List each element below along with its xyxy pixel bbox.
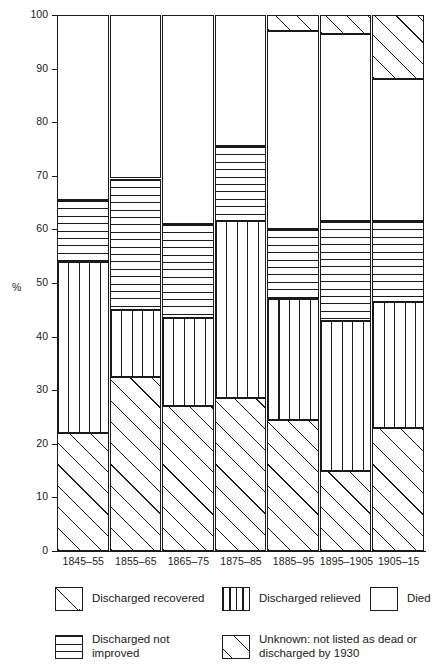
x-axis-line (57, 551, 426, 552)
bar-1885-95[interactable] (267, 15, 319, 551)
y-axis-tick-label: 0 (42, 544, 48, 556)
x-axis-label: 1845–55 (57, 555, 110, 567)
stacked-bar-chart-figure: % 0102030405060708090100 1845–551855–651… (0, 0, 436, 668)
x-axis-label: 1865–75 (162, 555, 215, 567)
bar-segment-unknown[interactable] (267, 15, 319, 31)
chart-legend: Discharged recovered Discharged relieved… (0, 583, 436, 668)
y-axis-tick-label: 40 (36, 330, 48, 342)
legend-label: Discharged not improved (92, 633, 169, 660)
bar-segment-discharged-not-improved[interactable] (372, 221, 424, 301)
bar-segment-discharged-relieved[interactable] (110, 310, 162, 377)
legend-label: Discharged recovered (92, 592, 205, 606)
bar-segment-died[interactable] (57, 15, 109, 200)
bars-group (57, 15, 425, 551)
y-axis-tick-label: 60 (36, 222, 48, 234)
x-axis-label: 1905–15 (372, 555, 425, 567)
bar-segment-discharged-not-improved[interactable] (57, 200, 109, 262)
bar-segment-unknown[interactable] (372, 15, 424, 79)
bar-segment-died[interactable] (267, 31, 319, 229)
bar-segment-discharged-not-improved[interactable] (267, 229, 319, 299)
y-axis-title: % (12, 281, 21, 293)
legend-item-unknown: Unknown: not listed as dead or discharge… (222, 633, 417, 660)
bar-segment-died[interactable] (320, 34, 372, 222)
bar-segment-discharged-relieved[interactable] (320, 321, 372, 471)
white-swatch-icon (370, 587, 398, 611)
bar-segment-discharged-recovered[interactable] (162, 406, 214, 551)
bar-segment-died[interactable] (215, 15, 267, 146)
legend-label: Unknown: not listed as dead or discharge… (259, 633, 417, 660)
bar-segment-unknown[interactable] (320, 15, 372, 34)
bar-segment-discharged-relieved[interactable] (162, 318, 214, 406)
legend-item-discharged-not-improved: Discharged not improved (55, 633, 169, 660)
bar-1905-15[interactable] (372, 15, 424, 551)
bar-segment-discharged-recovered[interactable] (110, 377, 162, 551)
y-axis-tick-label: 80 (36, 115, 48, 127)
bar-segment-discharged-not-improved[interactable] (110, 179, 162, 310)
bar-segment-discharged-relieved[interactable] (267, 299, 319, 420)
bar-1855-65[interactable] (110, 15, 162, 551)
y-axis-tick-mark (52, 551, 57, 552)
bar-segment-discharged-recovered[interactable] (215, 398, 267, 551)
bar-segment-died[interactable] (372, 79, 424, 221)
legend-item-died: Died (370, 587, 431, 611)
x-axis-label: 1875–85 (215, 555, 268, 567)
diagonal-hatch-swatch-icon (55, 587, 83, 611)
y-axis-tick-label: 30 (36, 383, 48, 395)
bar-segment-discharged-recovered[interactable] (57, 433, 109, 551)
legend-item-discharged-recovered: Discharged recovered (55, 587, 205, 611)
bar-1865-75[interactable] (162, 15, 214, 551)
bar-segment-discharged-not-improved[interactable] (215, 146, 267, 221)
bar-segment-discharged-not-improved[interactable] (320, 221, 372, 320)
x-axis-label: 1885–95 (267, 555, 320, 567)
x-axis-label: 1855–65 (110, 555, 163, 567)
y-axis-tick-label: 50 (36, 276, 48, 288)
bar-segment-died[interactable] (162, 15, 214, 224)
legend-label: Discharged relieved (259, 592, 361, 606)
bar-segment-discharged-relieved[interactable] (215, 221, 267, 398)
y-axis-tick-label: 20 (36, 437, 48, 449)
x-axis-label: 1895–1905 (320, 555, 373, 567)
bar-1895-1905[interactable] (320, 15, 372, 551)
bar-1875-85[interactable] (215, 15, 267, 551)
y-axis-tick-label: 70 (36, 169, 48, 181)
bar-segment-discharged-recovered[interactable] (267, 420, 319, 551)
bar-segment-discharged-recovered[interactable] (320, 471, 372, 551)
y-axis-tick-label: 10 (36, 490, 48, 502)
y-axis-tick-label: 100 (30, 8, 48, 20)
bar-segment-died[interactable] (110, 15, 162, 178)
legend-label: Died (407, 592, 431, 606)
y-axis-tick-label: 90 (36, 62, 48, 74)
bar-segment-discharged-not-improved[interactable] (162, 224, 214, 318)
sparse-diagonal-hatch-swatch-icon (222, 635, 250, 659)
legend-item-discharged-relieved: Discharged relieved (222, 587, 361, 611)
bar-segment-discharged-relieved[interactable] (372, 302, 424, 428)
horizontal-lines-swatch-icon (55, 635, 83, 659)
vertical-lines-swatch-icon (222, 587, 250, 611)
bar-segment-discharged-recovered[interactable] (372, 428, 424, 551)
bar-segment-discharged-relieved[interactable] (57, 262, 109, 434)
bar-1845-55[interactable] (57, 15, 109, 551)
